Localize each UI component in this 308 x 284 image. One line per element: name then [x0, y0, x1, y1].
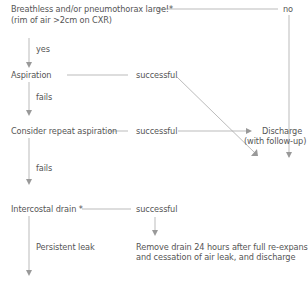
node-discharge-detail: (with follow-up) — [244, 136, 306, 146]
edge-label-yes: yes — [36, 44, 50, 54]
node-aspiration: Aspiration — [11, 70, 51, 80]
node-remove-drain-detail: and cessation of air leak, and discharge — [136, 252, 295, 262]
edge-label-successful-1: successful — [136, 70, 177, 80]
node-intercostal-drain: Intercostal drain * — [11, 204, 83, 214]
node-remove-drain: Remove drain 24 hours after full re-expa… — [136, 242, 308, 252]
edge-label-persistent-leak: Persistent leak — [36, 242, 95, 252]
node-discharge: Discharge — [262, 126, 302, 136]
edge-label-fails-2: fails — [36, 163, 52, 173]
edge-label-successful-3: successful — [136, 204, 177, 214]
start-question-detail: (rim of air >2cm on CXR) — [11, 15, 112, 25]
edge-label-fails-1: fails — [36, 92, 52, 102]
edge-label-successful-2: successful — [136, 126, 177, 136]
start-question: Breathless and/or pneumothorax large!* — [11, 4, 173, 14]
edge-label-no: no — [283, 4, 293, 14]
node-repeat-aspiration: Consider repeat aspiration — [11, 126, 117, 136]
